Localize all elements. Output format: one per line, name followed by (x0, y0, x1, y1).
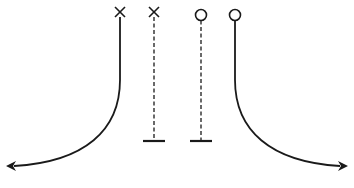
x-marker-icon (115, 7, 125, 17)
route-line (14, 17, 120, 166)
route-diagram (0, 0, 354, 188)
route-x-dashed (143, 7, 165, 141)
routes-layer (6, 7, 348, 171)
route-o-dashed (190, 10, 212, 142)
x-marker-icon (149, 7, 159, 17)
route-o-solid (230, 10, 349, 172)
circle-marker-icon (230, 10, 241, 21)
route-line (235, 21, 340, 167)
circle-marker-icon (196, 10, 207, 21)
route-x-solid (6, 7, 125, 171)
